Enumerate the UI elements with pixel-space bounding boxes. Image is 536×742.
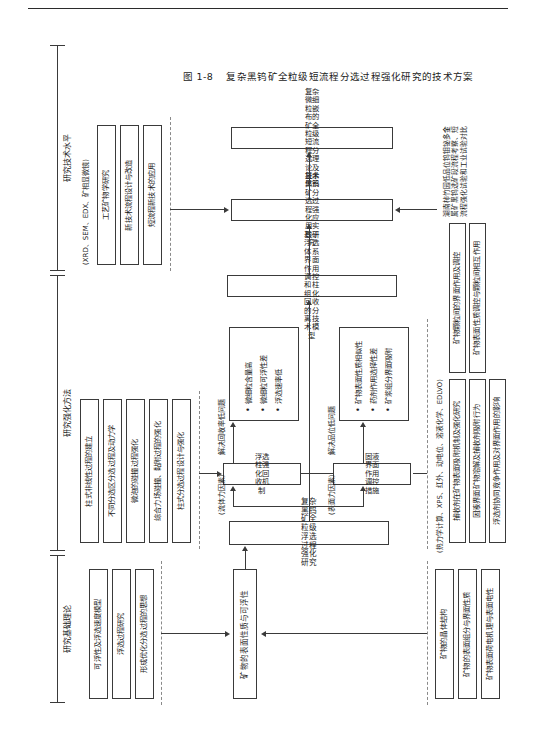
method-box-5: 柱式分选过程设计与强化	[172, 399, 191, 543]
foundation-box-2: 矿物的表面组分与界面性质	[458, 569, 477, 699]
bullet-icon: •	[275, 407, 283, 412]
arrow-down-icon	[224, 207, 229, 213]
arrow-right-icon	[230, 486, 236, 491]
spine-node-surface: 矿物的表面性质与可浮性	[233, 569, 257, 699]
list-item: •矿物表面性质相似性	[355, 336, 363, 412]
bullet-icon: •	[385, 407, 393, 412]
interface-box-2: 固液界面矿物溶解及捕收剂吸附行为	[469, 379, 486, 543]
arrow-up-icon	[395, 207, 400, 213]
tech-box-1: 工艺矿物学研究	[97, 125, 116, 265]
arrow-right-icon	[360, 422, 366, 427]
figure-caption: 图 1-8 复杂黑钨矿全粒级短流程分选过程强化研究的技术方案	[183, 69, 474, 83]
list-item: •药剂作用选择性差	[370, 336, 378, 412]
method-group-divider	[199, 391, 200, 549]
spine-node-core: 复杂黑钨矿全粒级浮选过程强化研究	[229, 521, 389, 545]
recovery-points-list: •微细粒含量高 •微细粒可浮性差 •浮选速率低	[229, 327, 299, 421]
branch-node-column: 浮选柱强化回收机制	[223, 463, 301, 485]
connector-methods-to-column	[199, 473, 219, 474]
connector-interface-to-grade	[363, 425, 364, 463]
arrow-down-icon	[217, 471, 222, 477]
arrow-right-icon	[230, 422, 236, 427]
apply-note: 湖南柿竹园低品位钨钼铋多金属矿黑钨选矿段流程考察、短流程强化试验和工业试验对比	[443, 121, 468, 217]
interface-box-1: 捕收剂在矿物表面吸附机制及强化研究	[449, 379, 466, 543]
tech-note: (XRD、SEM、EDX、矿相显微镜)	[83, 159, 90, 265]
outcome-box-3: 形成优化分选过程的思想	[135, 569, 154, 699]
bullet-icon: •	[355, 407, 363, 412]
method-box-3: 微泡的碰撞过程强化	[126, 399, 145, 543]
connector-model-to-apply	[309, 227, 310, 275]
arrow-right-icon	[306, 152, 312, 157]
arrow-right-icon	[242, 546, 248, 551]
figure-caption-text: 复杂黑钨矿全粒级短流程分选过程强化研究的技术方案	[226, 71, 473, 82]
list-item: •浮选速率低	[275, 336, 283, 412]
spine-node-result: 复杂微细粒嵌布的矿全粒级短流程分选理论及技术体系	[231, 127, 393, 149]
connector-core-to-interface	[363, 489, 364, 507]
page-top-rule	[28, 8, 508, 9]
bullet-icon: •	[370, 407, 378, 412]
spine-node-model: 基于浮选体系界面作用调控和柱组化回收的分离技术模型	[227, 275, 397, 297]
arrow-up-icon	[261, 631, 266, 637]
foundation-group-divider	[427, 561, 428, 705]
foundation-box-1: 矿物的晶体结构	[435, 569, 454, 699]
method-box-4: 综合力场碰撞、黏附过程的强化	[149, 399, 168, 543]
outcome-box-2: 浮选过程研究	[112, 569, 131, 699]
arrow-down-icon	[225, 631, 230, 637]
connector-column-to-recovery	[233, 425, 234, 463]
method-box-1: 柱式非线性过程的建立	[80, 399, 99, 543]
connector-applynote-to-apply	[399, 209, 437, 210]
section-title-basic-theory: 研究基础理论	[61, 555, 72, 703]
arrow-right-icon	[306, 224, 312, 229]
connector-core-branch-v	[233, 506, 363, 507]
connector-outcomes-to-surface	[161, 633, 225, 634]
connector-core-to-model	[309, 303, 310, 521]
connector-foundation-to-surface	[265, 633, 427, 634]
spine-node-apply: 复杂黑钨矿分选过程强化应用实践研究	[231, 199, 393, 221]
connector-branch-spine	[301, 473, 333, 474]
connector-tech-to-apply	[170, 209, 224, 210]
section-title-intensify: 研究强化方法	[61, 275, 72, 551]
connector-core-to-column	[233, 489, 234, 507]
interface-group-divider	[427, 319, 428, 549]
figure-canvas: 研究基础理论 研究强化方法 研究技术水平 可浮性及浮选速度模型 浮选过程研究 形…	[33, 21, 503, 721]
branch-node-interface: 固液界面作用调控措施	[333, 463, 411, 485]
label-surface-factor: (表面力因素)	[329, 475, 336, 515]
connector-surface-to-core	[245, 549, 246, 569]
foundation-note: (热力学计算、XPS、红外、动电位、溶液化学、EDLVO)	[437, 379, 444, 553]
bullet-icon: •	[245, 407, 253, 412]
arrow-right-icon	[306, 300, 312, 305]
label-fluid-factor: (流体力因素)	[219, 475, 226, 515]
figure-caption-number: 图 1-8	[183, 71, 213, 82]
outcome-box-1: 可浮性及浮选速度模型	[89, 569, 108, 699]
arrow-right-icon	[360, 486, 366, 491]
connector-apply-to-result	[309, 155, 310, 199]
figure-page: 研究基础理论 研究强化方法 研究技术水平 可浮性及浮选速度模型 浮选过程研究 形…	[0, 0, 536, 742]
label-problem-recovery: 解决回收率低问题	[219, 399, 226, 455]
method-box-2: 不同分选区分选过程及动力学	[103, 399, 122, 543]
connector-interface-bottom-up	[413, 473, 427, 474]
list-item: •矿浆组分界面吸附	[385, 336, 393, 412]
bullet-icon: •	[260, 407, 268, 412]
grade-points-list: •矿物表面性质相似性 •药剂作用选择性差 •矿浆组分界面吸附	[339, 327, 409, 421]
label-problem-grade: 解决品位低问题	[329, 406, 336, 455]
list-item: •微细粒含量高	[245, 336, 253, 412]
tech-box-3: 短流程新技术的应用	[143, 125, 162, 265]
foundation-box-3: 矿物表面荷电机理与表面电性	[481, 569, 500, 699]
tech-box-2: 新技术流程设计与改造	[120, 125, 139, 265]
tech-group-divider	[170, 117, 171, 271]
interface-box-5: 矿物表面性质调控与颗粒间相互作用	[469, 223, 486, 373]
section-title-tech-level: 研究技术水平	[61, 45, 72, 271]
interface-box-4: 矿物颗粒间的界面作用及调控	[449, 223, 466, 373]
list-item: •微细粒可浮性差	[260, 336, 268, 412]
interface-box-3: 浮选剂协同竞争作用及对界面作用的影响	[489, 379, 506, 543]
